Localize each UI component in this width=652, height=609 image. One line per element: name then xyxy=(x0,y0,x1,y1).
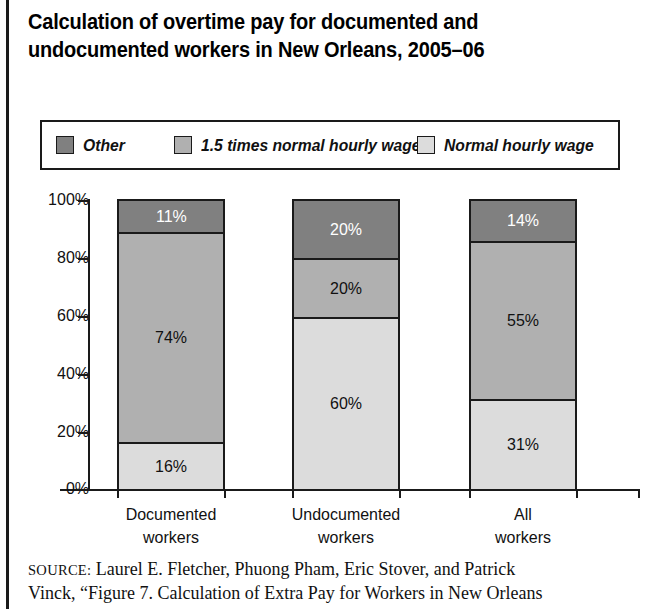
bar-segment-label-undocumented-one-point-five: 20% xyxy=(330,280,362,297)
y-tick-mark-40 xyxy=(78,374,89,376)
bar-segment-all-other[interactable]: 14% xyxy=(471,201,575,241)
bar-undocumented-workers[interactable]: 20% 20% 60% xyxy=(292,199,400,491)
bar-segment-label-undocumented-other: 20% xyxy=(330,221,362,238)
x-axis-label-undocumented-workers-line-1: Undocumented xyxy=(257,503,436,526)
y-tick-mark-100 xyxy=(78,200,89,202)
bar-segment-documented-normal[interactable]: 16% xyxy=(119,442,223,489)
bar-documented-workers[interactable]: 11% 74% 16% xyxy=(117,199,225,491)
y-axis-line xyxy=(88,199,90,491)
bar-segment-label-all-other: 14% xyxy=(507,212,539,229)
bar-segment-documented-one-point-five[interactable]: 74% xyxy=(119,232,223,442)
x-tick-mark-end xyxy=(638,489,640,498)
source-note-line-1-rest: Laurel E. Fletcher, Phuong Pham, Eric St… xyxy=(91,559,515,579)
y-tick-80: 80% xyxy=(0,258,89,260)
bar-segment-undocumented-one-point-five[interactable]: 20% xyxy=(294,258,398,317)
y-tick-20: 20% xyxy=(0,432,89,434)
bar-all-workers[interactable]: 14% 55% 31% xyxy=(469,199,577,491)
bar-segment-undocumented-normal[interactable]: 60% xyxy=(294,317,398,489)
y-tick-mark-60 xyxy=(78,316,89,318)
chart-plot-area: 100% 80% 60% 40% 20% 0% 11% 74% 16% xyxy=(0,0,652,609)
y-tick-mark-80 xyxy=(78,258,89,260)
bar-segment-label-undocumented-normal: 60% xyxy=(330,395,362,412)
bar-segment-all-normal[interactable]: 31% xyxy=(471,399,575,489)
bar-segment-undocumented-other[interactable]: 20% xyxy=(294,201,398,258)
bar-segment-all-one-point-five[interactable]: 55% xyxy=(471,241,575,399)
bar-segment-label-all-one-point-five: 55% xyxy=(507,312,539,329)
y-tick-40: 40% xyxy=(0,374,89,376)
x-axis-label-all-workers-line-2: workers xyxy=(434,526,613,549)
y-tick-0: 0% xyxy=(0,489,89,491)
source-note-prefix: SOURCE: xyxy=(28,562,91,578)
bar-segment-documented-other[interactable]: 11% xyxy=(119,201,223,232)
bar-segment-label-documented-other: 11% xyxy=(156,208,187,225)
source-note: SOURCE: Laurel E. Fletcher, Phuong Pham,… xyxy=(28,558,642,605)
x-axis-label-documented-workers-line-1: Documented xyxy=(82,503,261,526)
y-tick-mark-0 xyxy=(78,489,89,491)
x-axis-label-all-workers: All workers xyxy=(428,503,618,549)
bar-segment-label-documented-normal: 16% xyxy=(155,458,187,475)
source-note-line-2: Vinck, “Figure 7. Calculation of Extra P… xyxy=(28,582,642,605)
bar-segment-label-all-normal: 31% xyxy=(507,436,539,453)
y-tick-60: 60% xyxy=(0,316,89,318)
y-tick-100: 100% xyxy=(0,200,89,202)
x-axis-label-all-workers-line-1: All xyxy=(434,503,613,526)
x-axis-label-documented-workers-line-2: workers xyxy=(82,526,261,549)
x-axis-label-undocumented-workers-line-2: workers xyxy=(257,526,436,549)
x-axis-label-documented-workers: Documented workers xyxy=(76,503,266,549)
source-note-line-1: SOURCE: Laurel E. Fletcher, Phuong Pham,… xyxy=(28,558,642,582)
y-tick-mark-20 xyxy=(78,432,89,434)
bar-segment-label-documented-one-point-five: 74% xyxy=(155,329,187,346)
x-axis-label-undocumented-workers: Undocumented workers xyxy=(251,503,441,549)
